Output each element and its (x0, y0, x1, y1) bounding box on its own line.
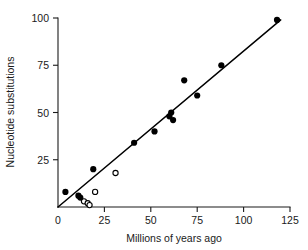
y-tick-label-25: 25 (37, 154, 49, 166)
open-circle-series (81, 170, 118, 207)
filled-circle-series (62, 17, 280, 201)
data-point-filled (131, 140, 137, 146)
data-point-filled (90, 166, 96, 172)
x-tick-label-100: 100 (235, 214, 253, 226)
data-point-open (93, 189, 98, 194)
data-point-open (113, 170, 118, 175)
x-axis-title: Millions of years ago (126, 232, 222, 244)
data-point-filled (170, 117, 176, 123)
plot-canvas: 100 75 50 25 0 25 50 75 100 125 Millions… (0, 0, 308, 250)
data-point-filled (77, 194, 83, 200)
data-point-filled (168, 109, 174, 115)
scatter-plot-figure: 100 75 50 25 0 25 50 75 100 125 Millions… (0, 0, 308, 250)
y-tick-label-75: 75 (37, 59, 49, 71)
data-point-filled (181, 77, 187, 83)
data-point-filled (151, 128, 157, 134)
y-tick-label-100: 100 (31, 12, 49, 24)
x-axis-ticks (104, 207, 290, 212)
x-tick-label-75: 75 (191, 214, 203, 226)
y-axis-ticks (53, 18, 58, 160)
x-tick-label-0: 0 (55, 214, 61, 226)
x-tick-label-25: 25 (99, 214, 111, 226)
x-axis-tick-labels: 0 25 50 75 100 125 (55, 214, 299, 226)
x-tick-label-50: 50 (145, 214, 157, 226)
y-axis-tick-labels: 100 75 50 25 (31, 12, 49, 166)
x-tick-label-125: 125 (281, 214, 299, 226)
data-point-filled (218, 62, 224, 68)
y-axis-title: Nucleotide substitutions (4, 57, 16, 168)
data-point-filled (62, 189, 68, 195)
data-point-filled (274, 17, 280, 23)
y-tick-label-50: 50 (37, 107, 49, 119)
data-point-filled (194, 92, 200, 98)
data-point-open (87, 203, 92, 208)
